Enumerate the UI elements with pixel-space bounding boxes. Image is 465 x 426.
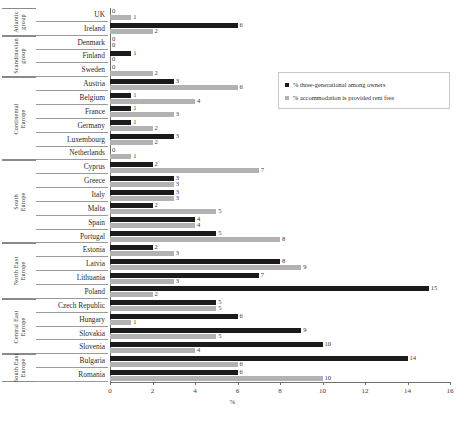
bar-rent-free [110,154,131,159]
bar-value-label: 3 [176,180,179,187]
group-label: South East Europe [12,351,26,385]
bar-value-label: 2 [155,27,158,34]
bar-value-label: 0 [112,41,115,48]
bar-rent-free [110,279,174,284]
bar-rent-free [110,292,153,297]
bar-value-label: 3 [176,77,179,84]
bar-three-generational [110,190,174,195]
category-label: France [36,105,108,119]
group-label: South Europe [12,185,26,219]
category-label: Spain [36,216,108,230]
bar-rent-free [110,376,323,381]
category-label: Sweden [36,63,108,77]
bar-rent-free [110,265,301,270]
category-label: Portugal [36,230,108,244]
bar-three-generational [110,203,153,208]
category-label: Estonia [36,243,108,257]
group-band: South East Europe [2,354,36,382]
bar-value-label: 1 [133,118,136,125]
bar-value-label: 14 [410,354,417,361]
category-label: Bulgaria [36,354,108,368]
category-label: Poland [36,285,108,299]
x-axis-tick [110,382,111,385]
bar-value-label: 2 [155,243,158,250]
bar-value-label: 2 [155,201,158,208]
x-axis-tick [365,382,366,385]
bar-value-label: 15 [431,284,438,291]
bar-rent-free [110,140,153,145]
x-axis-tick-label: 6 [236,387,240,395]
bar-rent-free [110,362,238,367]
bar-value-label: 1 [133,13,136,20]
category-label: Austria [36,77,108,91]
x-axis-tick-label: 2 [151,387,155,395]
category-label: Slovenia [36,340,108,354]
category-label: Cyprus [36,160,108,174]
bar-value-label: 1 [133,91,136,98]
bar-rent-free [110,71,153,76]
group-band: North East Europe [2,243,36,298]
group-band: Scandinavian group [2,36,36,78]
x-axis-tick [238,382,239,385]
bar-value-label: 6 [240,83,243,90]
category-label: Italy [36,188,108,202]
bar-rent-free [110,29,153,34]
legend-swatch-light-icon [285,96,289,100]
bar-value-label: 9 [303,263,306,270]
x-axis-tick-label: 16 [447,387,454,395]
bar-value-label: 0 [112,146,115,153]
bar-rent-free [110,348,195,353]
bar-value-label: 0 [112,55,115,62]
bar-value-label: 6 [240,368,243,375]
bar-value-label: 5 [218,229,221,236]
bar-rent-free [110,112,174,117]
bar-three-generational [110,79,174,84]
bar-value-label: 4 [197,221,200,228]
category-label-column: UKIrelandDenmarkFinlandSwedenAustriaBelg… [36,8,110,382]
category-label: Ireland [36,22,108,36]
bar-rent-free [110,126,153,131]
bar-value-label: 4 [197,97,200,104]
bar-three-generational [110,176,174,181]
x-axis-tick-label: 12 [362,387,369,395]
bar-rent-free [110,209,216,214]
bar-value-label: 6 [240,21,243,28]
bar-three-generational [110,300,216,305]
legend-label-rent-free: % accommodation is provided rent free [293,94,394,101]
bar-rent-free [110,15,131,20]
bar-rent-free [110,182,174,187]
category-label: Hungary [36,313,108,327]
bar-rent-free [110,334,216,339]
bar-value-label: 3 [176,110,179,117]
bar-value-label: 2 [155,160,158,167]
bar-value-label: 4 [197,346,200,353]
bar-three-generational [110,273,259,278]
bar-value-label: 9 [303,326,306,333]
bar-rent-free [110,223,195,228]
category-label: Luxembourg [36,133,108,147]
bar-rent-free [110,251,174,256]
bar-value-label: 2 [155,138,158,145]
bar-three-generational [110,259,280,264]
bar-value-label: 10 [325,340,332,347]
bar-rent-free [110,237,280,242]
bar-value-label: 3 [176,249,179,256]
x-axis-tick-label: 14 [404,387,411,395]
group-band: South Europe [2,160,36,243]
bar-rent-free [110,168,259,173]
x-axis-tick [195,382,196,385]
group-label: Central East Europe [12,310,26,344]
bar-chart: Atlantic groupScandinavian groupContinen… [0,0,465,426]
bar-value-label: 7 [261,166,264,173]
bar-three-generational [110,120,131,125]
bar-value-label: 3 [176,194,179,201]
bar-value-label: 6 [240,360,243,367]
bar-value-label: 5 [218,304,221,311]
x-axis-tick [323,382,324,385]
bar-value-label: 2 [155,69,158,76]
bar-rent-free [110,320,131,325]
bar-three-generational [110,23,238,28]
bar-three-generational [110,370,238,375]
legend-item-three-generational: % three-generational among owners [285,81,443,88]
bar-value-label: 6 [240,312,243,319]
